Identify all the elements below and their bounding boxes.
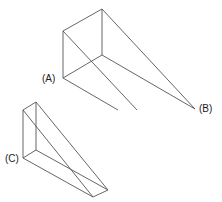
label-c: (C)	[5, 153, 19, 164]
wedge-diagram: (A) (B) (C)	[0, 0, 222, 202]
label-a: (A)	[42, 73, 55, 84]
large-wedge	[63, 9, 195, 110]
small-wedge	[23, 102, 108, 197]
label-b: (B)	[199, 103, 212, 114]
